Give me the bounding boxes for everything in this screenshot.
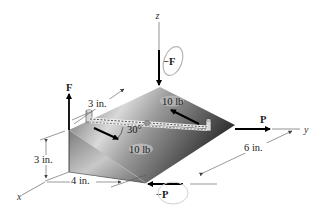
label-10lb-bottom: 10 lb [129, 144, 153, 156]
diagram-canvas: z 30° 10 lb 10 lb [0, 0, 322, 210]
svg-text:F: F [66, 82, 72, 93]
z-axis: z [155, 10, 160, 56]
svg-text:6 in.: 6 in. [244, 142, 263, 153]
svg-text:3 in.: 3 in. [88, 98, 107, 109]
svg-text:x: x [16, 191, 22, 202]
svg-text:z: z [155, 10, 160, 21]
force-arrow-P: P [235, 114, 270, 129]
x-axis: x [16, 182, 45, 202]
y-axis: y [272, 124, 309, 135]
svg-text:10 lb: 10 lb [162, 96, 183, 107]
svg-text:10 lb: 10 lb [129, 144, 150, 155]
force-arrow-minus-P: −P [148, 182, 188, 204]
svg-text:4 in.: 4 in. [71, 175, 90, 186]
svg-text:P: P [260, 114, 267, 125]
label-10lb-top: 10 lb [160, 96, 184, 108]
dimension-height: 3 in. [33, 131, 69, 181]
svg-text:3 in.: 3 in. [34, 154, 53, 165]
angle-label: 30° [127, 124, 142, 135]
force-arrow-minus-F: −F [159, 44, 187, 85]
force-arrow-F: F [66, 82, 72, 130]
svg-text:y: y [303, 124, 309, 135]
